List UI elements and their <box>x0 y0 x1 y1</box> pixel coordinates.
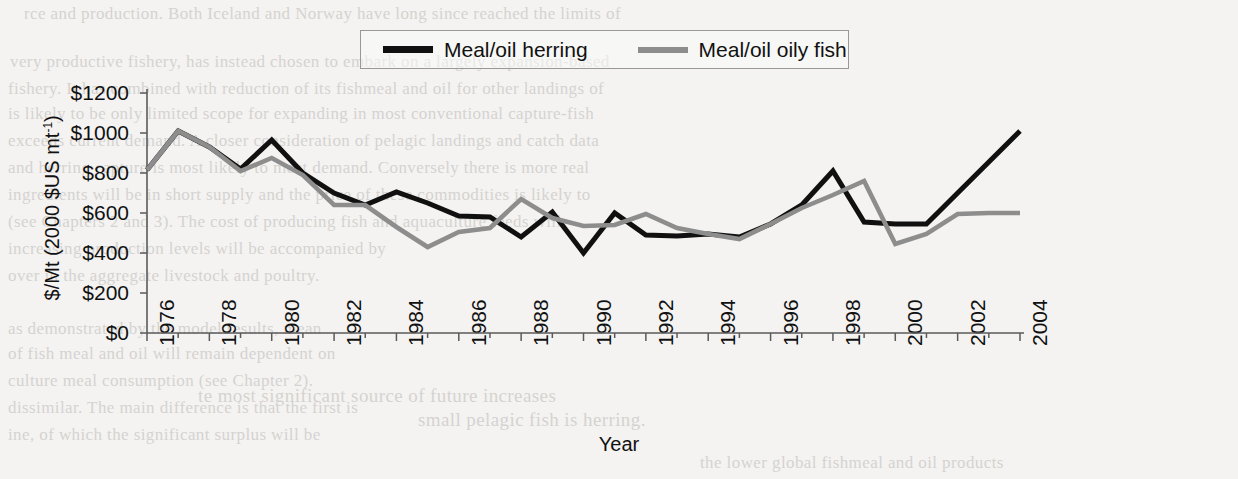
chart-legend: Meal/oil herring Meal/oil oily fish <box>360 30 849 69</box>
legend-label-oily-fish: Meal/oil oily fish <box>699 38 847 62</box>
legend-entry-oily-fish: Meal/oil oily fish <box>638 38 847 62</box>
legend-entry-herring: Meal/oil herring <box>383 38 588 62</box>
price-trend-chart: $/Mt (2000 $US mt-1) $1200$1000$800$600$… <box>0 0 1238 479</box>
legend-swatch-herring <box>383 46 433 53</box>
x-axis-title: Year <box>0 433 1238 456</box>
legend-swatch-oily-fish <box>638 47 688 53</box>
legend-label-herring: Meal/oil herring <box>444 38 588 62</box>
plot-area <box>0 0 1238 479</box>
